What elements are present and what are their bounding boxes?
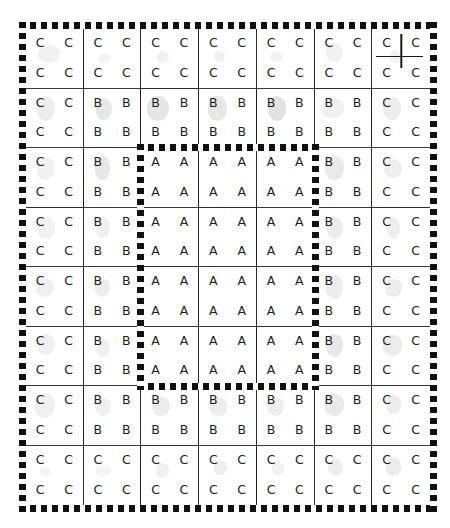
- cell-letter: C: [411, 216, 420, 229]
- cell-letter: A: [237, 305, 246, 318]
- cell-paper: [141, 148, 198, 207]
- grid-cell-r6-c5: AAAA: [257, 327, 315, 387]
- cell-letter: B: [267, 394, 276, 407]
- cell-paper: [141, 446, 198, 506]
- grid-cell-r5-c2: BBBB: [84, 267, 142, 327]
- cell-letter: C: [94, 37, 103, 50]
- cell-letter: C: [209, 67, 218, 80]
- grid-cell-r1-c6: CCCC: [315, 29, 373, 89]
- cell-letter: B: [209, 97, 218, 110]
- cell-letter: B: [295, 97, 304, 110]
- cell-letter: B: [151, 394, 160, 407]
- cell-paper: [199, 267, 256, 326]
- cell-letter: B: [295, 126, 304, 139]
- cell-letter: A: [295, 186, 304, 199]
- cell-letter: C: [295, 37, 304, 50]
- grid-cell-r8-c1: CCCC: [26, 446, 84, 506]
- cell-paper: [315, 29, 372, 88]
- cell-letter: A: [151, 156, 160, 169]
- cell-paper: [372, 327, 430, 386]
- grid-cell-r1-c5: CCCC: [257, 29, 315, 89]
- cell-letter: C: [237, 67, 246, 80]
- grid-cell-r2-c1: CCCC: [26, 89, 84, 149]
- cell-paper: [26, 148, 83, 207]
- cell-letter: B: [122, 394, 131, 407]
- cell-letter: C: [411, 245, 420, 258]
- cell-letter: C: [36, 37, 45, 50]
- cell-letter: C: [180, 484, 189, 497]
- grid-cell-r5-c1: CCCC: [26, 267, 84, 327]
- outer-border-left: [19, 22, 26, 512]
- cell-letter: C: [36, 156, 45, 169]
- cell-letter: C: [36, 216, 45, 229]
- cell-letter: B: [324, 305, 333, 318]
- cell-letter: C: [324, 37, 333, 50]
- cell-letter: A: [209, 305, 218, 318]
- cell-letter: B: [94, 126, 103, 139]
- cell-letter: A: [180, 305, 189, 318]
- cell-paper: [84, 446, 141, 506]
- cell-paper: [84, 327, 141, 386]
- cell-letter: B: [180, 394, 189, 407]
- cell-paper: [257, 386, 314, 445]
- cell-paper: [84, 29, 141, 88]
- cell-letter: A: [151, 245, 160, 258]
- cell-paper: [26, 29, 83, 88]
- cell-letter: B: [324, 97, 333, 110]
- cell-letter: C: [94, 484, 103, 497]
- cell-letter: B: [237, 97, 246, 110]
- grid-cell-r5-c6: BBBB: [315, 267, 373, 327]
- grid-cell-r7-c2: BBBB: [84, 386, 142, 446]
- grid-cell-r6-c1: CCCC: [26, 327, 84, 387]
- grid-cell-r5-c3: AAAA: [141, 267, 199, 327]
- cell-letter: C: [324, 484, 333, 497]
- cell-letter: C: [64, 484, 73, 497]
- cell-letter: B: [353, 424, 362, 437]
- cell-letter: B: [295, 394, 304, 407]
- cell-letter: B: [122, 275, 131, 288]
- cell-letter: C: [36, 335, 45, 348]
- cell-letter: A: [295, 305, 304, 318]
- cell-letter: B: [353, 126, 362, 139]
- cell-letter: C: [36, 484, 45, 497]
- cell-letter: B: [324, 424, 333, 437]
- cell-paper: [84, 89, 141, 148]
- cell-paper: [26, 327, 83, 386]
- cell-letter: B: [353, 305, 362, 318]
- cell-letter: A: [151, 335, 160, 348]
- cell-paper: [372, 208, 430, 267]
- cell-letter: B: [324, 216, 333, 229]
- cell-letter: C: [36, 245, 45, 258]
- cell-paper: [26, 386, 83, 445]
- cell-letter: C: [151, 484, 160, 497]
- cell-letter: C: [411, 37, 420, 50]
- cell-letter: C: [382, 454, 391, 467]
- cell-letter: C: [64, 186, 73, 199]
- cell-letter: C: [64, 424, 73, 437]
- cell-paper: [257, 89, 314, 148]
- cell-paper: [315, 148, 372, 207]
- cell-letter: C: [36, 424, 45, 437]
- cell-letter: B: [151, 424, 160, 437]
- cell-paper: [315, 89, 372, 148]
- grid-cell-r3-c5: AAAA: [257, 148, 315, 208]
- cell-paper: [372, 29, 430, 88]
- cell-letter: A: [209, 186, 218, 199]
- cell-letter: B: [122, 126, 131, 139]
- cell-letter: C: [411, 186, 420, 199]
- cell-letter: B: [94, 394, 103, 407]
- grid-cell-r5-c7: CCCC: [372, 267, 430, 327]
- cell-letter: A: [267, 305, 276, 318]
- cell-letter: C: [382, 126, 391, 139]
- cell-letter: A: [295, 156, 304, 169]
- cell-paper: [141, 89, 198, 148]
- letter-grid: CCCCCCCCCCCCCCCCCCCCCCCCCCCCCCCCBBBBBBBB…: [26, 29, 430, 505]
- cell-letter: B: [122, 245, 131, 258]
- cell-letter: B: [353, 364, 362, 377]
- cell-paper: [315, 446, 372, 506]
- cell-letter: A: [237, 156, 246, 169]
- cell-letter: B: [122, 305, 131, 318]
- cell-paper: [26, 89, 83, 148]
- grid-cell-r2-c7: CCCC: [372, 89, 430, 149]
- cell-letter: B: [180, 126, 189, 139]
